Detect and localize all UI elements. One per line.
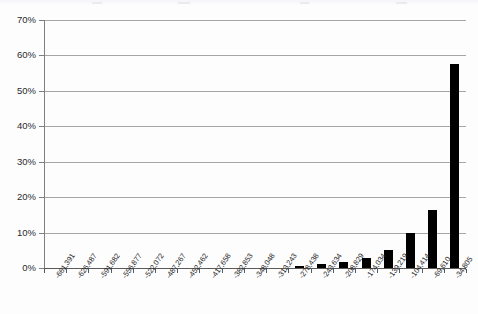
x-axis-tick-label: -348,048 [253,252,277,280]
x-axis-tick-label: -382,853 [231,252,255,280]
x-axis-tick-label: -278,438 [297,252,321,280]
x-axis-tick-label: -487,267 [164,252,188,280]
x-axis-labels: -661,391-626,487-591,682-556,877-522,072… [0,0,478,314]
histogram-chart: 70%60%50%40%30%20%10%0% -661,391-626,487… [0,0,478,314]
x-axis-tick-label: -591,682 [98,252,122,280]
x-axis-tick-label: -452,462 [186,252,210,280]
x-axis-tick-label: -522,072 [142,252,166,280]
x-axis-tick-label: -174,034 [364,252,388,280]
x-axis-tick-label: -104,414 [408,252,432,280]
x-axis-tick-label: -417,658 [209,252,233,280]
x-axis-tick-label: -208,829 [342,252,366,280]
x-axis-tick-label: -243,634 [320,252,344,280]
x-axis-tick-label: -626,487 [75,252,99,280]
x-axis-tick-label: -313,243 [275,252,299,280]
x-axis-tick-label: -34,805 [453,255,474,280]
x-axis-tick-label: -139,219 [386,252,410,280]
x-axis-tick-label: -661,391 [53,252,77,280]
x-axis-tick-label: -556,877 [120,252,144,280]
x-axis-tick-label: -69,610 [431,255,452,280]
